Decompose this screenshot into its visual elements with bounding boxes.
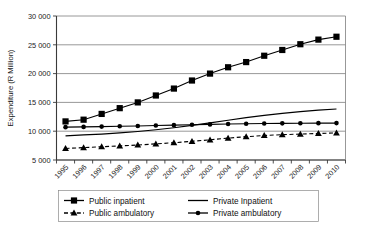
data-point-marker xyxy=(117,105,123,111)
data-point-marker xyxy=(99,124,104,129)
data-point-marker xyxy=(154,123,159,128)
data-point-marker xyxy=(298,121,303,126)
y-axis-title-group: Expenditure (R Million) xyxy=(6,49,15,126)
x-axis-ticks-group: 1995199619971998199920002001200220032004… xyxy=(52,160,345,181)
legend-item-private-ambulatory[interactable]: Private ambulatory xyxy=(188,209,282,218)
data-point-marker xyxy=(297,41,303,47)
y-tick-label: 25 000 xyxy=(28,41,51,50)
x-tick-label: 2005 xyxy=(233,163,251,181)
y-tick-label: 10 000 xyxy=(28,127,51,136)
chart-container: Expenditure (R Million) 5 00010 00015 00… xyxy=(0,0,375,227)
data-point-marker xyxy=(189,77,195,83)
data-series-layer xyxy=(62,34,340,151)
data-point-marker xyxy=(99,111,105,117)
y-tick-label: 30 000 xyxy=(28,12,51,21)
data-point-marker xyxy=(261,53,267,59)
y-tick-label: 5 000 xyxy=(32,156,51,165)
x-tick-label: 2010 xyxy=(323,163,341,181)
data-point-marker xyxy=(243,133,250,139)
x-tick-label: 2003 xyxy=(197,163,215,181)
series-public-ambulatory xyxy=(62,130,340,152)
legend-item-private-inpatient[interactable]: Private Inpatient xyxy=(188,197,273,206)
x-tick-label: 1998 xyxy=(107,163,125,181)
y-tick-label: 20 000 xyxy=(28,69,51,78)
data-point-marker xyxy=(262,121,267,126)
x-tick-label: 2000 xyxy=(143,163,161,181)
y-axis-ticks-group: 5 00010 00015 00020 00025 00030 000 xyxy=(28,12,57,165)
data-point-marker xyxy=(280,121,285,126)
series-private-ambulatory xyxy=(63,121,339,130)
data-point-marker xyxy=(226,122,231,127)
data-point-marker xyxy=(190,122,195,127)
legend-label: Private Inpatient xyxy=(213,197,273,206)
data-point-marker xyxy=(208,122,213,127)
data-point-marker xyxy=(172,123,177,128)
x-tick-label: 2008 xyxy=(287,163,305,181)
legend-item-public-inpatient[interactable]: Public inpatient xyxy=(64,197,145,206)
data-point-marker xyxy=(63,125,68,130)
data-point-marker xyxy=(81,125,86,130)
data-point-marker xyxy=(62,118,68,124)
y-axis-title: Expenditure (R Million) xyxy=(6,49,15,126)
x-tick-label: 2001 xyxy=(161,163,179,181)
data-point-marker xyxy=(171,85,177,91)
data-point-marker xyxy=(196,211,201,216)
x-tick-label: 1996 xyxy=(71,163,89,181)
x-tick-label: 2004 xyxy=(215,163,233,181)
legend-group: Public inpatientPublic ambulatoryPrivate… xyxy=(64,197,282,219)
series-path xyxy=(66,37,337,122)
x-tick-label: 1997 xyxy=(89,163,107,181)
x-tick-label: 2007 xyxy=(269,163,287,181)
x-tick-label: 2006 xyxy=(251,163,269,181)
y-tick-label: 15 000 xyxy=(28,98,51,107)
data-point-marker xyxy=(333,34,339,40)
data-point-marker xyxy=(153,92,159,98)
gridlines-group xyxy=(57,16,346,160)
legend-label: Public inpatient xyxy=(89,197,145,206)
data-point-marker xyxy=(315,37,321,43)
data-point-marker xyxy=(135,99,141,105)
legend-item-public-ambulatory[interactable]: Public ambulatory xyxy=(64,209,155,218)
x-tick-label: 1995 xyxy=(52,163,70,181)
x-tick-label: 2002 xyxy=(179,163,197,181)
series-path xyxy=(66,133,337,149)
data-point-marker xyxy=(316,121,321,126)
legend-label: Public ambulatory xyxy=(89,209,155,218)
data-point-marker xyxy=(117,124,122,129)
expenditure-line-chart: Expenditure (R Million) 5 00010 00015 00… xyxy=(0,0,375,227)
data-point-marker xyxy=(334,121,339,126)
data-point-marker xyxy=(135,124,140,129)
series-public-inpatient xyxy=(62,34,339,125)
data-point-marker xyxy=(171,139,178,145)
x-tick-label: 1999 xyxy=(125,163,143,181)
data-point-marker xyxy=(243,59,249,65)
data-point-marker xyxy=(333,130,340,136)
data-point-marker xyxy=(225,64,231,70)
data-point-marker xyxy=(207,71,213,77)
x-tick-label: 2009 xyxy=(305,163,323,181)
data-point-marker xyxy=(80,117,86,123)
data-point-marker xyxy=(244,121,249,126)
data-point-marker xyxy=(279,47,285,53)
data-point-marker xyxy=(71,197,77,203)
legend-label: Private ambulatory xyxy=(213,209,282,218)
